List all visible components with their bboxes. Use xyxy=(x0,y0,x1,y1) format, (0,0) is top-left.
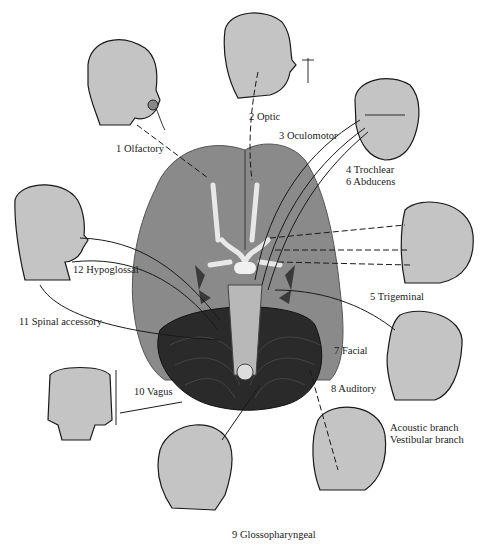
label-vestibular-branch: Vestibular branch xyxy=(390,435,464,446)
head-throat xyxy=(158,425,232,510)
label-auditory: 8 Auditory xyxy=(331,384,376,395)
head-profile-viewing-flower xyxy=(224,13,314,98)
head-profile-facial xyxy=(387,311,462,400)
label-optic: 2 Optic xyxy=(249,112,280,123)
label-trigeminal: 5 Trigeminal xyxy=(370,292,424,303)
label-abducens: 6 Abducens xyxy=(346,177,395,188)
label-oculomotor: 3 Oculomotor xyxy=(279,131,338,142)
head-face-sensory xyxy=(401,202,473,283)
label-spinal-accessory: 11 Spinal accessory xyxy=(19,317,102,328)
head-smelling-flower xyxy=(88,40,165,130)
label-facial: 7 Facial xyxy=(334,346,368,357)
label-vagus: 10 Vagus xyxy=(134,387,173,398)
label-acoustic-branch: Acoustic branch xyxy=(390,423,459,434)
label-glossopharyngeal: 9 Glossopharyngeal xyxy=(232,530,316,541)
label-hypoglossal: 12 Hypoglossal xyxy=(73,265,139,276)
brain-inferior-view xyxy=(132,144,343,410)
label-trochlear: 4 Trochlear xyxy=(346,165,394,176)
label-olfactory: 1 Olfactory xyxy=(116,144,164,155)
torso-organs xyxy=(48,368,116,441)
head-ear-sound xyxy=(313,407,386,490)
head-front-eye-muscles xyxy=(355,79,419,160)
